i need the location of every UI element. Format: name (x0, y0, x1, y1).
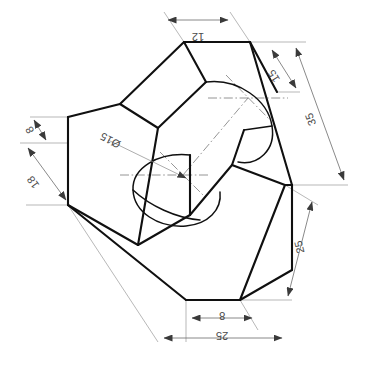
base-slab (68, 104, 292, 300)
dim-left-height-18-label: 18 (24, 174, 41, 191)
dim-upper-right-15-label: 15 (265, 68, 282, 85)
vertical-wall (120, 42, 292, 185)
dim-left-thickness-8-label: 8 (23, 124, 37, 135)
dim-bottom-overall-25-label: 25 (216, 330, 229, 342)
isometric-drawing-canvas: 12 15 35 25 8 25 8 18 Ø15 (0, 0, 390, 375)
dim-hole-diameter-label: Ø15 (98, 130, 123, 151)
hole-centerlines (120, 75, 288, 198)
dim-top-width-label: 12 (192, 31, 205, 43)
dim-right-lower-25-label: 25 (292, 239, 307, 254)
drawing-sheet: 12 15 35 25 8 25 8 18 Ø15 (0, 0, 390, 375)
dim-right-overall-35-label: 35 (302, 111, 318, 127)
dim-bottom-step-8-label: 8 (219, 310, 225, 322)
dimension-lines (28, 20, 344, 338)
